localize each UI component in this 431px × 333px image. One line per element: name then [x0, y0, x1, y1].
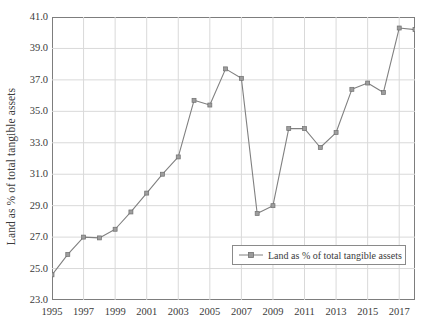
- x-tick-label: 2011: [294, 306, 315, 317]
- x-tick-label: 2007: [231, 306, 252, 317]
- chart-legend: Land as % of total tangible assets: [232, 245, 406, 265]
- x-tick-label: 1999: [105, 306, 126, 317]
- x-tick-label: 2015: [357, 306, 378, 317]
- x-tick-label: 1997: [73, 306, 94, 317]
- x-tick-label: 2009: [262, 306, 283, 317]
- x-tick-label: 2005: [199, 306, 220, 317]
- x-tick-label: 2001: [136, 306, 157, 317]
- x-tick-label: 2003: [168, 306, 189, 317]
- x-tick-label: 2017: [389, 306, 410, 317]
- x-tick-label: 1995: [42, 306, 63, 317]
- chart-container: Land as % of total tangible assets 41.03…: [0, 0, 431, 333]
- legend-item-label: Land as % of total tangible assets: [268, 250, 402, 261]
- x-tick-label: 2013: [326, 306, 347, 317]
- legend-line-marker-icon: [238, 250, 264, 260]
- x-axis-tick-labels: 1995199719992001200320052007200920112013…: [0, 0, 431, 333]
